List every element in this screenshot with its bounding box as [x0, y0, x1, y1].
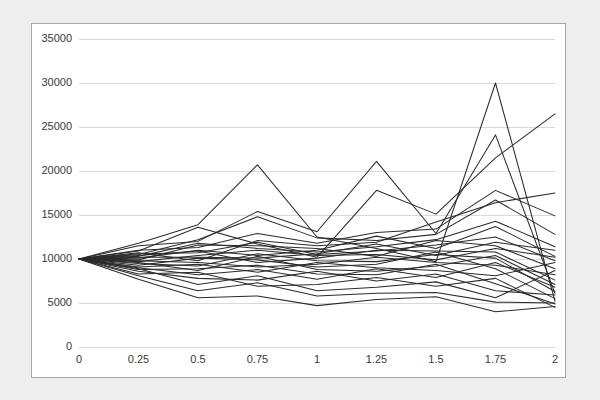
- y-tick-label: 15000: [41, 208, 72, 220]
- x-tick-label: 0.5: [190, 353, 205, 365]
- x-tick-label: 0.75: [247, 353, 268, 365]
- series-line: [79, 83, 555, 301]
- x-tick-label: 0.25: [128, 353, 149, 365]
- series-line: [79, 252, 555, 299]
- y-tick-label: 30000: [41, 76, 72, 88]
- gridlines-group: [79, 40, 555, 348]
- line-chart: 05000100001500020000250003000035000 00.2…: [32, 24, 565, 377]
- x-tick-label: 1.5: [428, 353, 443, 365]
- x-tick-label: 1.25: [366, 353, 387, 365]
- y-tick-label: 10000: [41, 252, 72, 264]
- y-tick-label: 20000: [41, 164, 72, 176]
- y-tick-label: 35000: [41, 32, 72, 44]
- x-tick-label: 2: [552, 353, 558, 365]
- x-tick-label: 1: [314, 353, 320, 365]
- y-tick-label: 5000: [48, 296, 72, 308]
- y-axis-tick-labels: 05000100001500020000250003000035000: [41, 32, 72, 352]
- x-tick-label: 1.75: [485, 353, 506, 365]
- y-tick-label: 0: [66, 340, 72, 352]
- x-axis-tick-labels: 00.250.50.7511.251.51.752: [76, 353, 558, 365]
- chart-panel: 05000100001500020000250003000035000 00.2…: [31, 23, 566, 378]
- x-tick-label: 0: [76, 353, 82, 365]
- series-lines-group: [79, 83, 555, 312]
- y-tick-label: 25000: [41, 120, 72, 132]
